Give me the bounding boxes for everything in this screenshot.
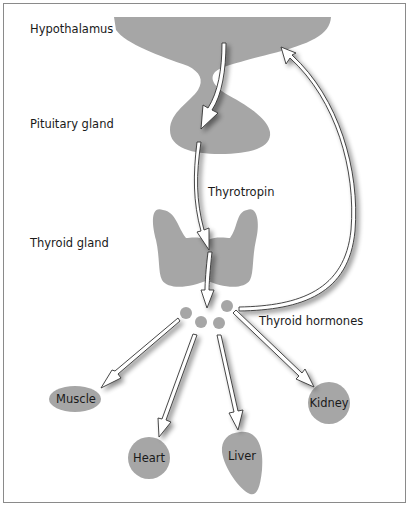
- arrow-to-heart: [158, 334, 197, 437]
- hypothalamus-shape: [114, 17, 331, 154]
- heart-label: Heart: [133, 451, 165, 465]
- thyroid-gland-label: Thyroid gland: [30, 236, 109, 250]
- kidney-label: Kidney: [309, 396, 348, 410]
- liver-label: Liver: [228, 449, 256, 463]
- liver-shape: [222, 432, 262, 495]
- thyrotropin-label: Thyrotropin: [208, 185, 274, 199]
- diagram-canvas: [0, 0, 410, 508]
- arrow-to-muscle: [101, 318, 180, 388]
- hypothalamus-label: Hypothalamus: [30, 22, 113, 36]
- arrow-feedback-to-hypothalamus: [239, 47, 356, 311]
- arrow-pituitary-to-thyroid: [194, 142, 209, 250]
- pituitary-gland-label: Pituitary gland: [30, 117, 114, 131]
- arrow-to-liver: [217, 335, 243, 430]
- muscle-label: Muscle: [56, 392, 96, 406]
- thyroid-hormones-label: Thyroid hormones: [259, 314, 363, 328]
